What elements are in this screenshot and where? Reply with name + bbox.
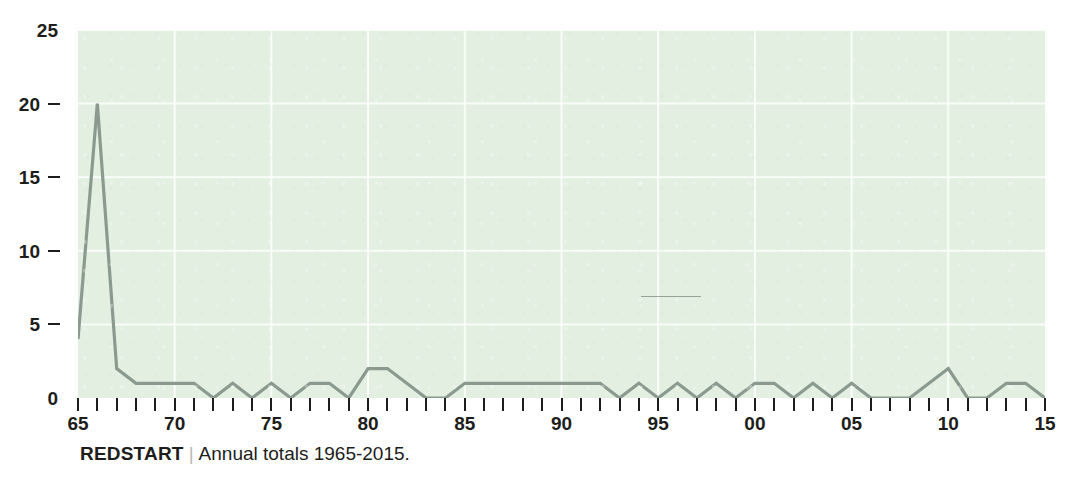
x-tick-mark bbox=[483, 398, 485, 411]
x-tick-mark bbox=[348, 398, 350, 411]
y-tick-mark bbox=[48, 176, 60, 178]
x-tick-mark bbox=[889, 398, 891, 411]
x-tick-mark bbox=[754, 398, 756, 411]
chart-figure: 0510152025 6570758085909500051015 REDSTA… bbox=[0, 0, 1084, 484]
y-axis: 0510152025 bbox=[0, 0, 62, 484]
y-tick-label: 5 bbox=[0, 315, 40, 334]
x-tick-mark bbox=[638, 398, 640, 411]
x-tick-label: 90 bbox=[551, 414, 572, 433]
x-tick-mark bbox=[541, 398, 543, 411]
x-tick-mark bbox=[735, 398, 737, 411]
x-tick-mark bbox=[193, 398, 195, 411]
x-tick-label: 05 bbox=[841, 414, 862, 433]
x-tick-mark bbox=[909, 398, 911, 411]
x-tick-mark bbox=[154, 398, 156, 411]
x-tick-mark bbox=[715, 398, 717, 411]
x-tick-mark bbox=[212, 398, 214, 411]
y-tick-label: 10 bbox=[0, 241, 40, 260]
x-tick-label: 70 bbox=[164, 414, 185, 433]
x-tick-mark bbox=[851, 398, 853, 411]
x-tick-mark bbox=[386, 398, 388, 411]
x-tick-mark bbox=[232, 398, 234, 411]
x-tick-mark bbox=[290, 398, 292, 411]
x-tick-mark bbox=[464, 398, 466, 411]
x-tick-mark bbox=[657, 398, 659, 411]
x-tick-mark bbox=[947, 398, 949, 411]
x-tick-mark bbox=[135, 398, 137, 411]
x-tick-mark bbox=[986, 398, 988, 411]
x-tick-label: 65 bbox=[67, 414, 88, 433]
x-tick-mark bbox=[251, 398, 253, 411]
x-tick-mark bbox=[561, 398, 563, 411]
y-tick-mark bbox=[48, 323, 60, 325]
x-axis: 6570758085909500051015 bbox=[78, 398, 1045, 440]
x-tick-mark bbox=[773, 398, 775, 411]
chart-caption: REDSTART|Annual totals 1965-2015. bbox=[80, 442, 410, 467]
x-tick-mark bbox=[444, 398, 446, 411]
x-tick-mark bbox=[1005, 398, 1007, 411]
vertical-gridlines bbox=[175, 30, 949, 398]
x-tick-label: 10 bbox=[938, 414, 959, 433]
x-tick-mark bbox=[619, 398, 621, 411]
x-tick-mark bbox=[696, 398, 698, 411]
caption-description: Annual totals 1965-2015. bbox=[199, 443, 410, 464]
x-tick-label: 85 bbox=[454, 414, 475, 433]
x-tick-mark bbox=[116, 398, 118, 411]
x-tick-mark bbox=[580, 398, 582, 411]
caption-separator: | bbox=[184, 443, 199, 464]
x-tick-label: 80 bbox=[358, 414, 379, 433]
x-tick-mark bbox=[96, 398, 98, 411]
x-tick-mark bbox=[309, 398, 311, 411]
x-tick-mark bbox=[406, 398, 408, 411]
x-tick-mark bbox=[77, 398, 79, 411]
x-tick-mark bbox=[522, 398, 524, 411]
x-tick-mark bbox=[870, 398, 872, 411]
x-tick-mark bbox=[502, 398, 504, 411]
x-tick-label: 15 bbox=[1034, 414, 1055, 433]
caption-species-name: REDSTART bbox=[80, 443, 184, 464]
x-tick-mark bbox=[328, 398, 330, 411]
x-tick-mark bbox=[1025, 398, 1027, 411]
x-tick-label: 75 bbox=[261, 414, 282, 433]
x-tick-mark bbox=[967, 398, 969, 411]
x-tick-mark bbox=[677, 398, 679, 411]
x-tick-mark bbox=[174, 398, 176, 411]
x-tick-mark bbox=[928, 398, 930, 411]
x-tick-mark bbox=[270, 398, 272, 411]
x-tick-mark bbox=[599, 398, 601, 411]
x-tick-mark bbox=[812, 398, 814, 411]
x-tick-mark bbox=[831, 398, 833, 411]
y-tick-label: 20 bbox=[0, 94, 40, 113]
x-tick-mark bbox=[367, 398, 369, 411]
y-tick-label: 25 bbox=[18, 21, 58, 40]
x-tick-label: 95 bbox=[648, 414, 669, 433]
plot-area bbox=[78, 30, 1045, 398]
y-tick-mark bbox=[48, 250, 60, 252]
x-tick-mark bbox=[793, 398, 795, 411]
x-tick-mark bbox=[1044, 398, 1046, 411]
x-tick-mark bbox=[425, 398, 427, 411]
chart-line-svg bbox=[78, 30, 1045, 398]
y-tick-label: 15 bbox=[0, 168, 40, 187]
y-tick-label: 0 bbox=[18, 389, 58, 408]
scan-artifact-line bbox=[641, 296, 701, 297]
y-tick-mark bbox=[48, 103, 60, 105]
x-tick-label: 00 bbox=[744, 414, 765, 433]
